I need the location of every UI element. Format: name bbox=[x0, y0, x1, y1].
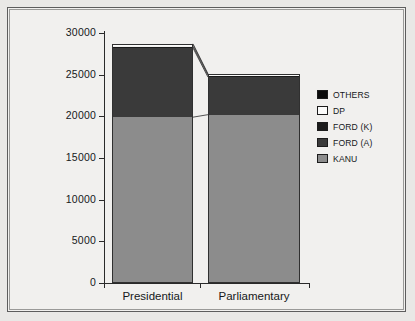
legend-label-others: OTHERS bbox=[333, 90, 370, 100]
bar-segment-kanu bbox=[112, 117, 193, 283]
x-tick-mark bbox=[309, 283, 310, 288]
x-tick-label-parliamentary: Parliamentary bbox=[204, 290, 304, 302]
bar-presidential[interactable] bbox=[112, 33, 193, 283]
legend-swatch-dp bbox=[317, 106, 328, 115]
legend-item-others[interactable]: OTHERS bbox=[317, 88, 397, 102]
legend-item-ford-a[interactable]: FORD (A) bbox=[317, 136, 397, 150]
legend-label-ford-k: FORD (K) bbox=[333, 122, 372, 132]
legend-swatch-others bbox=[317, 90, 328, 99]
legend-item-dp[interactable]: DP bbox=[317, 104, 397, 118]
legend-swatch-ford-a bbox=[317, 138, 328, 147]
bar-segment-kanu bbox=[208, 115, 300, 283]
x-tick-mark bbox=[104, 283, 105, 288]
chart-legend: OTHERS DP FORD (K) FORD (A) KANU bbox=[317, 88, 397, 168]
bar-segment-ford-a bbox=[208, 77, 300, 115]
bar-segment-ford-k bbox=[208, 76, 300, 78]
bar-segment-ford-a bbox=[112, 48, 193, 117]
legend-swatch-kanu bbox=[317, 154, 328, 163]
x-tick-label-presidential: Presidential bbox=[103, 290, 203, 302]
chart-figure: 050001000015000200002500030000 President… bbox=[0, 0, 415, 321]
bar-segment-ford-k bbox=[112, 47, 193, 49]
legend-label-kanu: KANU bbox=[333, 154, 357, 164]
x-tick-mark bbox=[200, 283, 201, 288]
legend-label-ford-a: FORD (A) bbox=[333, 138, 372, 148]
legend-swatch-ford-k bbox=[317, 122, 328, 131]
bar-segment-dp bbox=[112, 45, 193, 47]
bar-parliamentary[interactable] bbox=[208, 33, 300, 283]
legend-label-dp: DP bbox=[333, 106, 345, 116]
bar-segment-others bbox=[112, 44, 193, 45]
legend-item-kanu[interactable]: KANU bbox=[317, 152, 397, 166]
bar-segment-others bbox=[208, 74, 300, 75]
legend-item-ford-k[interactable]: FORD (K) bbox=[317, 120, 397, 134]
